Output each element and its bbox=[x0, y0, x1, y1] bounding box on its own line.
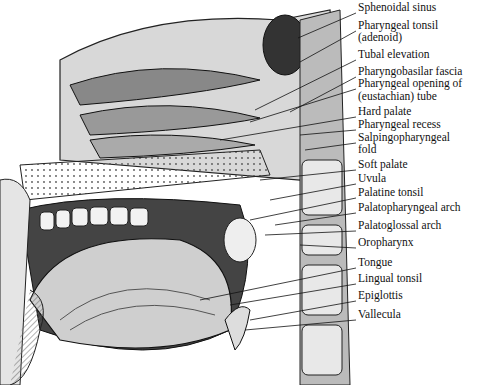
label-tongue: Tongue bbox=[358, 256, 392, 269]
label-soft-palate: Soft palate bbox=[358, 158, 408, 171]
anatomy-figure: Sphenoidal sinus Pharyngeal tonsil (aden… bbox=[0, 0, 480, 385]
label-tubal-elevation: Tubal elevation bbox=[358, 48, 429, 61]
label-vallecula: Vallecula bbox=[358, 308, 401, 321]
label-uvula: Uvula bbox=[358, 172, 386, 185]
label-pharyngeal-tonsil: Pharyngeal tonsil bbox=[358, 19, 438, 32]
label-epiglottis: Epiglottis bbox=[358, 289, 403, 302]
label-salpingopharyngeal: Salpingopharyngeal bbox=[358, 131, 450, 144]
label-pharyngeal-opening: Pharyngeal opening of bbox=[358, 77, 462, 90]
label-palatopharyngeal-arch: Palatopharyngeal arch bbox=[358, 201, 461, 214]
label-palatoglossal-arch: Palatoglossal arch bbox=[358, 219, 441, 232]
label-pharyngeal-recess: Pharyngeal recess bbox=[358, 118, 441, 131]
label-palatine-tonsil: Palatine tonsil bbox=[358, 186, 423, 199]
label-hard-palate: Hard palate bbox=[358, 105, 411, 118]
label-oropharynx: Oropharynx bbox=[358, 236, 414, 249]
label-lingual-tonsil: Lingual tonsil bbox=[358, 272, 422, 285]
label-pharyngobasilar-fascia: Pharyngobasilar fascia bbox=[358, 65, 462, 78]
label-adenoid: (adenoid) bbox=[358, 31, 402, 44]
label-fold: fold bbox=[358, 143, 377, 156]
label-eustachian-tube: (eustachian) tube bbox=[358, 90, 437, 103]
label-sphenoidal-sinus: Sphenoidal sinus bbox=[358, 1, 436, 14]
